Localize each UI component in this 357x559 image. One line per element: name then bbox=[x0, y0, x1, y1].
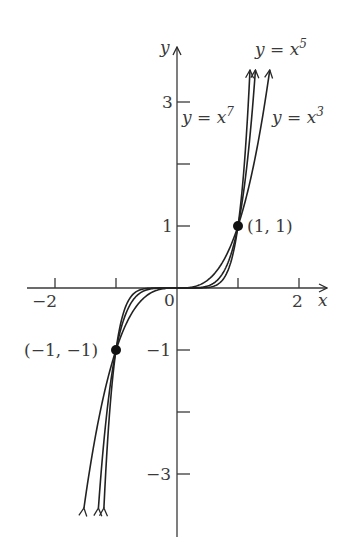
y-tick-label-neg1: −1 bbox=[146, 340, 171, 360]
power-functions-plot: y x 0 −2 2 3 1 −1 −3 y = x5 y = x7 y = x… bbox=[0, 0, 357, 559]
y-tick-label-1: 1 bbox=[162, 216, 173, 236]
y-tick-label-neg3: −3 bbox=[146, 464, 171, 484]
y-axis-label: y bbox=[159, 37, 170, 57]
point-label-neg1-neg1: (−1, −1) bbox=[24, 340, 98, 360]
origin-label: 0 bbox=[164, 290, 175, 310]
x-axis-label: x bbox=[318, 290, 328, 310]
point-1-1 bbox=[233, 221, 243, 231]
point-label-1-1: (1, 1) bbox=[247, 216, 293, 236]
curve-label-x3: y = x3 bbox=[271, 105, 324, 127]
curve-label-x7: y = x7 bbox=[181, 105, 234, 127]
x-tick-label-neg2: −2 bbox=[32, 291, 57, 311]
y-tick-label-3: 3 bbox=[162, 92, 173, 112]
x-tick-label-2: 2 bbox=[292, 291, 303, 311]
point-neg1-neg1 bbox=[111, 345, 121, 355]
curve-label-x5: y = x5 bbox=[254, 37, 307, 59]
